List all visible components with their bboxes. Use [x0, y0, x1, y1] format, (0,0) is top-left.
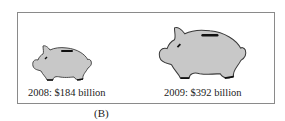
piggy-bank-icon-2009: [155, 22, 253, 84]
label-2008: 2008: $184 billion: [28, 87, 106, 98]
piggy-bank-icon-2008: [30, 42, 96, 84]
figure-caption: (B): [94, 107, 109, 119]
label-2009: 2009: $392 billion: [164, 87, 242, 98]
